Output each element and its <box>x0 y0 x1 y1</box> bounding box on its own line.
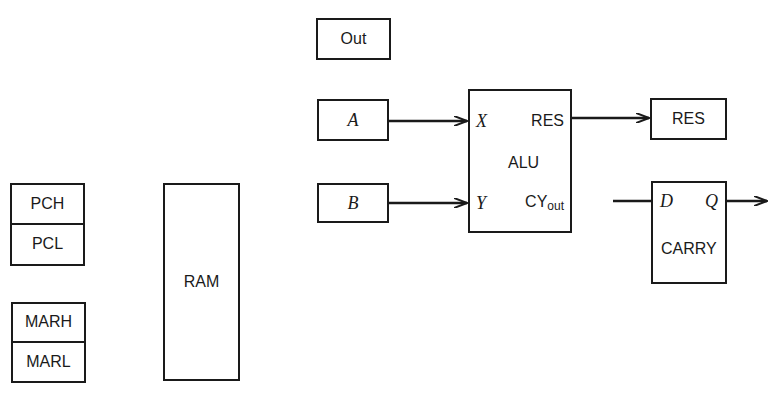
alu-input-y-label: Y <box>476 193 486 214</box>
pch-register: PCH <box>12 185 83 225</box>
alu-block: X RES ALU Y CYout <box>468 89 572 233</box>
a-register: A <box>317 99 389 141</box>
pcl-register: PCL <box>12 225 83 265</box>
alu-output-carry-label: CYout <box>525 193 564 213</box>
carry-title: CARRY <box>661 240 717 258</box>
alu-title: ALU <box>508 154 539 172</box>
marl-register: MARL <box>13 343 84 382</box>
carry-main-text: CY <box>525 193 547 210</box>
alu-input-x-label: X <box>476 111 487 132</box>
alu-output-res-label: RES <box>531 112 564 130</box>
carry-flipflop: D Q CARRY <box>651 181 727 284</box>
mar-register: MARH MARL <box>11 302 86 383</box>
marh-register: MARH <box>13 304 84 343</box>
carry-input-d-label: D <box>660 191 673 212</box>
ram-block: RAM <box>163 183 240 381</box>
pc-register: PCH PCL <box>10 183 85 266</box>
carry-output-q-label: Q <box>705 191 718 212</box>
carry-sub-text: out <box>547 199 564 213</box>
res-register: RES <box>650 98 727 140</box>
b-register: B <box>317 183 389 223</box>
out-register: Out <box>316 18 391 60</box>
